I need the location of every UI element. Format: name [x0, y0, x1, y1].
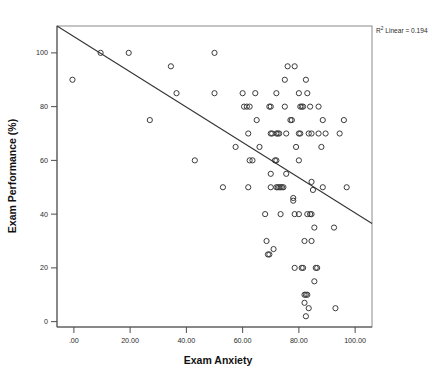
y-tick-label: 20 [40, 263, 48, 272]
data-point [331, 225, 336, 230]
data-point [296, 158, 301, 163]
data-point [316, 131, 321, 136]
data-point [316, 104, 321, 109]
data-point [264, 238, 269, 243]
data-point [263, 212, 268, 217]
y-axis-title: Exam Performance (%) [6, 119, 18, 233]
data-point [293, 144, 298, 149]
data-point [174, 91, 179, 96]
chart-canvas: 020406080100 .0020.0040.0060.0080.00100.… [0, 0, 432, 376]
data-point [320, 117, 325, 122]
data-point [233, 144, 238, 149]
y-axis-ticks: 020406080100 [36, 48, 57, 326]
data-point [303, 314, 308, 319]
data-point [282, 104, 287, 109]
data-point [319, 144, 324, 149]
data-point [147, 117, 152, 122]
data-point [212, 91, 217, 96]
data-point [284, 131, 289, 136]
data-point [305, 91, 310, 96]
data-point [296, 91, 301, 96]
data-point [274, 91, 279, 96]
x-tick-label: 40.00 [177, 336, 195, 345]
r-squared-annotation: R2 Linear = 0.194 [376, 26, 428, 34]
data-point [126, 50, 131, 55]
y-tick-label: 40 [40, 210, 48, 219]
x-tick-label: 100.00 [344, 336, 366, 345]
data-point [192, 158, 197, 163]
data-point [271, 246, 276, 251]
data-point [240, 91, 245, 96]
data-point [257, 144, 262, 149]
y-tick-label: 60 [40, 156, 48, 165]
plot-frame [57, 26, 372, 327]
data-point [292, 265, 297, 270]
x-tick-label: .00 [69, 336, 79, 345]
data-point [246, 131, 251, 136]
y-tick-label: 80 [40, 102, 48, 111]
x-tick-label: 60.00 [234, 336, 252, 345]
y-tick-label: 100 [36, 48, 48, 57]
data-point [312, 225, 317, 230]
r-squared-value: Linear = 0.194 [383, 27, 428, 34]
data-point [278, 212, 283, 217]
data-point [341, 117, 346, 122]
data-point [246, 185, 251, 190]
data-point [344, 185, 349, 190]
data-point [292, 64, 297, 69]
data-point [282, 77, 287, 82]
data-point [212, 50, 217, 55]
data-points-layer [70, 50, 349, 319]
y-tick-label: 0 [44, 317, 48, 326]
x-axis-ticks: .0020.0040.0060.0080.00100.00 [69, 327, 366, 345]
data-point [268, 185, 273, 190]
data-point [220, 185, 225, 190]
scatter-plot-figure: 020406080100 .0020.0040.0060.0080.00100.… [0, 0, 432, 376]
x-tick-label: 80.00 [290, 336, 308, 345]
data-point [253, 91, 258, 96]
data-point [312, 279, 317, 284]
data-point [302, 238, 307, 243]
data-point [309, 238, 314, 243]
data-point [337, 131, 342, 136]
data-point [308, 104, 313, 109]
data-point [302, 300, 307, 305]
data-point [320, 185, 325, 190]
data-point [268, 171, 273, 176]
data-point [168, 64, 173, 69]
data-point [285, 64, 290, 69]
data-point [323, 131, 328, 136]
data-point [254, 117, 259, 122]
x-axis-title: Exam Anxiety [184, 354, 253, 366]
data-point [309, 179, 314, 184]
data-point [306, 306, 311, 311]
data-point [70, 77, 75, 82]
data-point [333, 306, 338, 311]
data-point [284, 171, 289, 176]
data-point [303, 77, 308, 82]
x-tick-label: 20.00 [121, 336, 139, 345]
